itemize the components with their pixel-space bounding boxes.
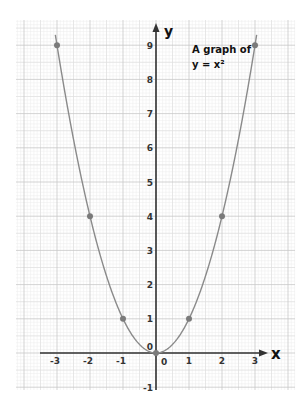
- data-point-marker: [120, 316, 126, 322]
- x-axis-arrow-icon: [259, 350, 268, 357]
- chart-title: A graph of: [192, 44, 252, 55]
- data-point-marker: [153, 350, 159, 356]
- data-point-marker: [186, 316, 192, 322]
- y-axis-label: y: [164, 23, 173, 39]
- axes: [40, 23, 268, 390]
- x-tick-label: 1: [186, 356, 192, 366]
- y-tick-label: 1: [147, 314, 153, 324]
- x-tick-label: -2: [83, 356, 93, 366]
- y-tick-label: 7: [147, 109, 153, 119]
- y-tick-label: 3: [147, 246, 153, 256]
- y-tick-label: 4: [147, 212, 153, 222]
- data-point-marker: [219, 213, 225, 219]
- y-tick-label: -1: [143, 383, 153, 393]
- x-tick-label: 0: [161, 357, 167, 367]
- y-tick-label: 6: [147, 143, 153, 153]
- origin-label: 0: [147, 342, 153, 352]
- y-tick-label: 8: [147, 75, 153, 85]
- x-tick-label: -1: [116, 356, 126, 366]
- y-tick-label: 5: [147, 178, 153, 188]
- data-point-marker: [252, 42, 258, 48]
- x-tick-label: -3: [50, 356, 60, 366]
- x-tick-label: 2: [219, 356, 225, 366]
- x-axis-label: x: [271, 345, 281, 363]
- chart-subtitle: y = x²: [192, 59, 225, 70]
- y-axis-arrow-icon: [153, 23, 160, 32]
- y-tick-label: 2: [147, 280, 153, 290]
- data-point-marker: [87, 213, 93, 219]
- tick-labels: -3-2-10123-11234567890: [50, 41, 258, 393]
- data-point-marker: [54, 42, 60, 48]
- x-tick-label: 3: [252, 356, 258, 366]
- y-tick-label: 9: [147, 41, 153, 51]
- graph-canvas: -3-2-10123-11234567890 A graph of y = x²…: [0, 0, 307, 411]
